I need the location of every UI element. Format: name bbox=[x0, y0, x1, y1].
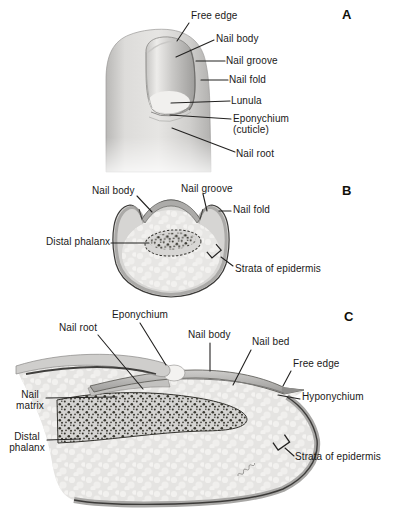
nail-anatomy-illustration bbox=[0, 0, 393, 523]
label-nail-matrix-c: Nail matrix bbox=[12, 389, 48, 411]
panel-b-illustration bbox=[111, 194, 233, 297]
lunula-crescent bbox=[148, 91, 190, 113]
label-nail-fold-a: Nail fold bbox=[229, 74, 266, 85]
label-nail-fold-b: Nail fold bbox=[233, 204, 270, 215]
fingertip-cross-section bbox=[113, 200, 229, 297]
label-nail-root-c: Nail root bbox=[59, 322, 97, 333]
nail-sagittal-section bbox=[16, 354, 317, 504]
panel-a-illustration bbox=[106, 23, 235, 172]
nail-anatomy-figure: Free edge Nail body Nail groove Nail fol… bbox=[0, 0, 393, 523]
label-hyponychium-c: Hyponychium bbox=[302, 391, 364, 402]
label-free-edge-a: Free edge bbox=[191, 10, 238, 21]
label-free-edge-c: Free edge bbox=[293, 358, 340, 369]
label-nail-bed-c: Nail bed bbox=[252, 336, 290, 347]
label-nail-groove-a: Nail groove bbox=[226, 55, 278, 66]
label-distal-phalanx-c: Distal phalanx bbox=[5, 431, 49, 453]
panel-letter-c: C bbox=[344, 309, 353, 324]
panel-letter-a: A bbox=[342, 7, 351, 22]
label-eponychium-c: Eponychium bbox=[112, 309, 168, 320]
finger-dorsal-view bbox=[106, 29, 211, 172]
label-strata-of-epidermis-b: Strata of epidermis bbox=[235, 263, 321, 274]
label-distal-phalanx-b: Distal phalanx bbox=[46, 236, 110, 247]
label-nail-body-b: Nail body bbox=[92, 185, 135, 196]
panel-letter-b: B bbox=[342, 183, 351, 198]
panel-c-illustration bbox=[16, 323, 317, 504]
label-strata-of-epidermis-c: Strata of epidermis bbox=[295, 451, 381, 462]
label-lunula-a: Lunula bbox=[231, 95, 262, 106]
label-nail-body-c: Nail body bbox=[188, 329, 231, 340]
label-nail-groove-b: Nail groove bbox=[181, 183, 233, 194]
label-nail-body-a: Nail body bbox=[216, 33, 259, 44]
label-eponychium-a: Eponychium (cuticle) bbox=[233, 113, 289, 135]
label-nail-root-a: Nail root bbox=[236, 148, 274, 159]
